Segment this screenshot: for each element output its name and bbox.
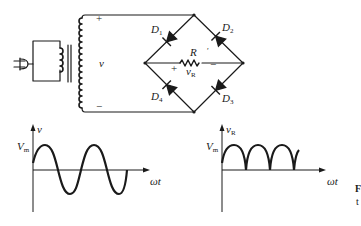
diode-d3-label: D3 <box>222 93 233 106</box>
resistor-label: R <box>190 47 197 58</box>
output-x-axis-label: ωt <box>327 176 338 187</box>
input-peak-label: Vm <box>17 141 29 154</box>
source-voltage-label: v <box>99 58 104 69</box>
load-plus: + <box>171 63 177 74</box>
rectified-wave <box>222 145 299 170</box>
caption-line-1: F <box>355 184 361 194</box>
source-plus: + <box>96 13 102 24</box>
input-y-axis-label: v <box>37 124 42 135</box>
source-minus: − <box>96 101 102 112</box>
input-x-axis-label: ωt <box>150 176 161 187</box>
diode-d1-label: D1 <box>151 24 162 37</box>
diode-d4-label: D4 <box>151 91 162 104</box>
load-minus: − <box>210 59 216 70</box>
resistor-tick: ′ <box>207 48 209 56</box>
primary-wire-bottom <box>33 64 60 81</box>
output-peak-label: Vm <box>206 141 218 154</box>
output-waveform-graph <box>220 124 327 212</box>
caption-line-2: t <box>356 197 359 207</box>
output-y-axis-label: vR <box>226 124 236 137</box>
diode-d2-label: D2 <box>222 22 233 35</box>
secondary-coil-icon <box>79 18 82 108</box>
primary-wire-top <box>28 41 60 64</box>
primary-coil-icon <box>60 48 63 72</box>
input-waveform-graph <box>31 124 151 212</box>
load-voltage-label: vR <box>186 66 196 79</box>
plug-icon <box>14 58 28 70</box>
